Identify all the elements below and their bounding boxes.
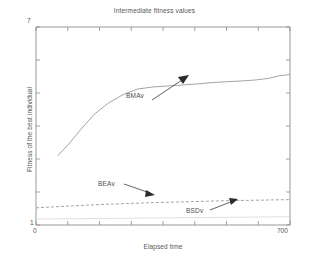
x-tick-label-min: 0 (33, 227, 37, 234)
x-tick-label-max: 700 (277, 227, 288, 234)
chart-figure: Intermediate fitness values Fitness of t… (0, 0, 309, 263)
arrow-head-bsdv (229, 198, 238, 205)
data-series-layer (36, 75, 290, 220)
arrow-head-beav (145, 190, 155, 197)
y-tick-label-max: 7 (27, 17, 31, 24)
series-annotation-beav: BEAv (98, 180, 115, 187)
y-tick-label-min: 1 (30, 219, 34, 226)
arrow-bsdv (210, 201, 233, 210)
arrow-head-bmav (178, 75, 189, 84)
y-axis-label: Fitness of the best individual (26, 55, 33, 205)
axis-ticks (36, 27, 290, 225)
series-line-beav (36, 200, 290, 208)
arrow-bmav (152, 78, 185, 100)
plot-canvas (0, 0, 309, 263)
series-line-bmav (58, 75, 290, 156)
plot-frame (36, 27, 290, 225)
series-line-bsdv (36, 217, 290, 219)
chart-title: Intermediate fitness values (0, 7, 309, 14)
series-annotation-bsdv: BSDv (186, 207, 203, 214)
series-annotation-bmav: BMAv (126, 92, 144, 99)
x-axis-label: Elapsed time (36, 243, 290, 250)
